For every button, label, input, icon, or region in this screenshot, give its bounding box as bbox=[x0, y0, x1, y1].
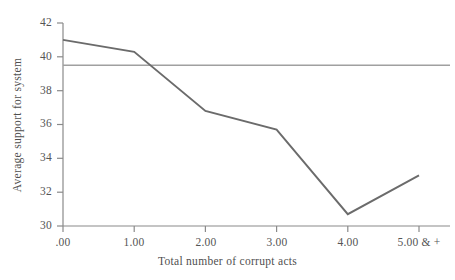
x-axis-ticks bbox=[63, 226, 419, 232]
y-axis-title: Average support for system bbox=[11, 25, 23, 225]
chart-figure: 42 40 38 36 34 32 30 .00 1.00 2.00 3.00 … bbox=[0, 0, 455, 280]
y-tick-label-36: 36 bbox=[22, 117, 52, 129]
x-tick-label-1: 1.00 bbox=[99, 236, 169, 248]
y-tick-label-40: 40 bbox=[22, 50, 52, 62]
x-tick-label-3: 3.00 bbox=[242, 236, 312, 248]
x-tick-label-0: .00 bbox=[28, 236, 98, 248]
x-tick-label-2: 2.00 bbox=[171, 236, 241, 248]
x-tick-label-5: 5.00 & + bbox=[384, 236, 454, 248]
y-tick-label-42: 42 bbox=[22, 16, 52, 28]
y-tick-label-32: 32 bbox=[22, 185, 52, 197]
x-axis-title: Total number of corrupt acts bbox=[0, 255, 455, 267]
y-axis-ticks bbox=[57, 23, 63, 226]
y-tick-label-38: 38 bbox=[22, 84, 52, 96]
y-tick-label-34: 34 bbox=[22, 151, 52, 163]
y-tick-label-30: 30 bbox=[22, 219, 52, 231]
x-tick-label-4: 4.00 bbox=[313, 236, 383, 248]
